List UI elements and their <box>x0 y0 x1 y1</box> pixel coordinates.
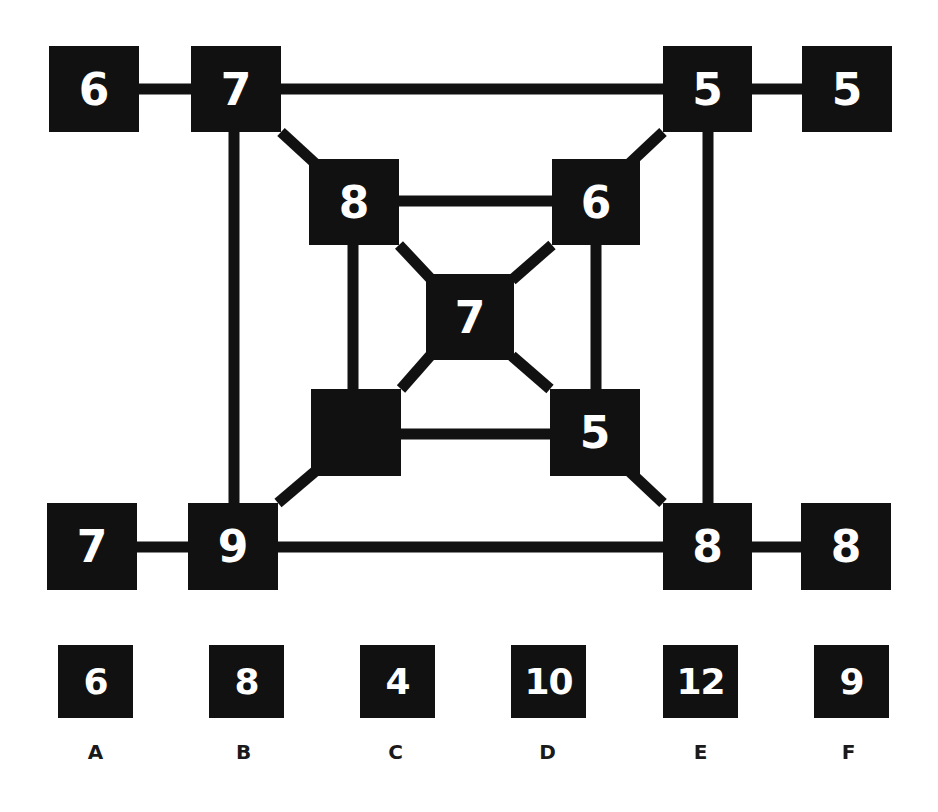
option-d-label: D <box>510 740 585 764</box>
option-c-box[interactable]: 4 <box>360 645 435 718</box>
option-b-box[interactable]: 8 <box>209 645 284 718</box>
node-outer-top-left: 7 <box>191 46 281 132</box>
node-outer-bottom-right: 8 <box>663 503 752 590</box>
node-outer-bottom-right-far: 8 <box>801 503 891 590</box>
option-f-box[interactable]: 9 <box>814 645 889 718</box>
option-d-box[interactable]: 10 <box>511 645 586 718</box>
connector-lines <box>0 0 938 812</box>
node-outer-bottom-left: 9 <box>188 503 278 590</box>
node-inner-bottom-left-missing <box>311 389 401 476</box>
option-b-label: B <box>206 740 281 764</box>
node-outer-top-right: 5 <box>663 46 752 132</box>
option-e-label: E <box>663 740 738 764</box>
node-inner-bottom-right: 5 <box>550 389 640 476</box>
node-center: 7 <box>426 274 514 360</box>
option-f-label: F <box>811 740 886 764</box>
node-outer-bottom-left-far: 7 <box>47 503 137 590</box>
node-inner-top-right: 6 <box>552 159 640 245</box>
option-c-label: C <box>358 740 433 764</box>
option-a-label: A <box>58 740 133 764</box>
node-outer-top-left-far: 6 <box>49 46 139 132</box>
node-outer-top-right-far: 5 <box>802 46 892 132</box>
option-a-box[interactable]: 6 <box>58 645 133 718</box>
node-inner-top-left: 8 <box>309 159 399 245</box>
option-e-box[interactable]: 12 <box>663 645 738 718</box>
